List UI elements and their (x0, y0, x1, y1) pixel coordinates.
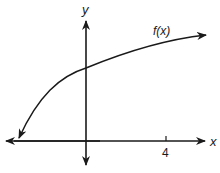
x-axis-label: x (209, 134, 217, 149)
function-graph: y x f(x) 4 (0, 0, 220, 173)
y-axis-label: y (81, 2, 90, 17)
curve-f-x-right (86, 35, 206, 68)
x-tick-label-4: 4 (162, 146, 169, 160)
curve-f-x-left (19, 68, 86, 138)
curve-label: f(x) (153, 24, 170, 38)
